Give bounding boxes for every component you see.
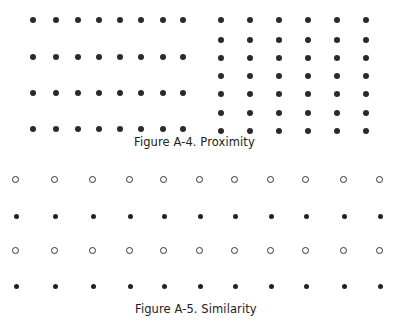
- figure-a5-caption: Figure A-5. Similarity: [135, 302, 257, 316]
- filled-dot-icon: [276, 91, 282, 97]
- hollow-circle-icon: [231, 176, 238, 183]
- filled-dot-icon: [30, 17, 36, 23]
- hollow-circle-icon: [376, 247, 383, 254]
- filled-dot-icon: [276, 73, 282, 79]
- filled-dot-icon: [276, 17, 282, 23]
- filled-dot-icon: [363, 17, 369, 23]
- hollow-circle-icon: [376, 176, 383, 183]
- hollow-circle-icon: [302, 247, 309, 254]
- filled-dot-icon: [363, 110, 369, 116]
- filled-dot-icon: [117, 54, 123, 60]
- filled-dot-icon: [218, 91, 224, 97]
- filled-dot-icon: [218, 17, 224, 23]
- filled-dot-icon: [162, 214, 167, 219]
- filled-dot-icon: [247, 37, 253, 43]
- filled-dot-icon: [269, 214, 274, 219]
- filled-dot-icon: [247, 55, 253, 61]
- filled-dot-icon: [75, 90, 81, 96]
- filled-dot-icon: [117, 17, 123, 23]
- filled-dot-icon: [75, 54, 81, 60]
- filled-dot-icon: [14, 214, 19, 219]
- hollow-circle-icon: [126, 176, 133, 183]
- hollow-circle-icon: [231, 247, 238, 254]
- hollow-circle-icon: [267, 247, 274, 254]
- filled-dot-icon: [247, 17, 253, 23]
- filled-dot-icon: [247, 128, 253, 134]
- filled-dot-icon: [138, 90, 144, 96]
- filled-dot-icon: [342, 214, 347, 219]
- filled-dot-icon: [305, 110, 311, 116]
- filled-dot-icon: [363, 73, 369, 79]
- hollow-circle-icon: [160, 176, 167, 183]
- filled-dot-icon: [305, 37, 311, 43]
- hollow-circle-icon: [340, 247, 347, 254]
- filled-dot-icon: [247, 91, 253, 97]
- filled-dot-icon: [218, 37, 224, 43]
- filled-dot-icon: [378, 284, 383, 289]
- filled-dot-icon: [247, 73, 253, 79]
- filled-dot-icon: [276, 55, 282, 61]
- filled-dot-icon: [233, 284, 238, 289]
- filled-dot-icon: [30, 54, 36, 60]
- filled-dot-icon: [247, 110, 253, 116]
- filled-dot-icon: [363, 91, 369, 97]
- filled-dot-icon: [160, 90, 166, 96]
- filled-dot-icon: [162, 284, 167, 289]
- filled-dot-icon: [180, 54, 186, 60]
- filled-dot-icon: [198, 214, 203, 219]
- filled-dot-icon: [117, 126, 123, 132]
- filled-dot-icon: [198, 284, 203, 289]
- filled-dot-icon: [53, 214, 58, 219]
- filled-dot-icon: [180, 17, 186, 23]
- filled-dot-icon: [53, 284, 58, 289]
- filled-dot-icon: [53, 54, 59, 60]
- filled-dot-icon: [180, 126, 186, 132]
- filled-dot-icon: [334, 55, 340, 61]
- filled-dot-icon: [53, 17, 59, 23]
- filled-dot-icon: [96, 126, 102, 132]
- filled-dot-icon: [233, 214, 238, 219]
- filled-dot-icon: [334, 73, 340, 79]
- filled-dot-icon: [276, 128, 282, 134]
- filled-dot-icon: [342, 284, 347, 289]
- filled-dot-icon: [269, 284, 274, 289]
- hollow-circle-icon: [196, 247, 203, 254]
- filled-dot-icon: [138, 54, 144, 60]
- filled-dot-icon: [218, 128, 224, 134]
- hollow-circle-icon: [12, 247, 19, 254]
- filled-dot-icon: [30, 126, 36, 132]
- filled-dot-icon: [180, 90, 186, 96]
- filled-dot-icon: [218, 55, 224, 61]
- filled-dot-icon: [363, 55, 369, 61]
- filled-dot-icon: [91, 284, 96, 289]
- hollow-circle-icon: [89, 176, 96, 183]
- filled-dot-icon: [91, 214, 96, 219]
- filled-dot-icon: [14, 284, 19, 289]
- filled-dot-icon: [363, 128, 369, 134]
- filled-dot-icon: [276, 110, 282, 116]
- filled-dot-icon: [276, 37, 282, 43]
- hollow-circle-icon: [267, 176, 274, 183]
- filled-dot-icon: [138, 126, 144, 132]
- filled-dot-icon: [305, 73, 311, 79]
- hollow-circle-icon: [51, 176, 58, 183]
- filled-dot-icon: [96, 54, 102, 60]
- filled-dot-icon: [30, 90, 36, 96]
- filled-dot-icon: [53, 90, 59, 96]
- filled-dot-icon: [305, 17, 311, 23]
- hollow-circle-icon: [160, 247, 167, 254]
- filled-dot-icon: [160, 126, 166, 132]
- hollow-circle-icon: [340, 176, 347, 183]
- filled-dot-icon: [334, 110, 340, 116]
- filled-dot-icon: [75, 126, 81, 132]
- filled-dot-icon: [305, 128, 311, 134]
- filled-dot-icon: [334, 17, 340, 23]
- filled-dot-icon: [304, 284, 309, 289]
- filled-dot-icon: [218, 73, 224, 79]
- filled-dot-icon: [128, 284, 133, 289]
- filled-dot-icon: [334, 37, 340, 43]
- filled-dot-icon: [96, 90, 102, 96]
- filled-dot-icon: [75, 17, 81, 23]
- filled-dot-icon: [378, 214, 383, 219]
- hollow-circle-icon: [89, 247, 96, 254]
